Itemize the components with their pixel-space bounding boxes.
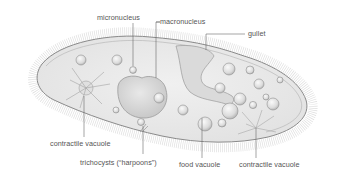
label-macronucleus: macronucleus [160, 18, 205, 25]
label-trichocysts: trichocysts (“harpoons”) [80, 159, 157, 166]
paramecium-illustration [0, 0, 341, 183]
cell-body [37, 36, 307, 142]
label-micronucleus: micronucleus [97, 14, 140, 21]
paramecium-diagram: micronucleus macronucleus gullet contrac… [0, 0, 341, 183]
label-contractile-vacuole-left: contractile vacuole [50, 140, 110, 147]
micronucleus [130, 67, 137, 74]
label-food-vacuole: food vacuole [179, 161, 220, 168]
label-gullet: gullet [248, 30, 265, 37]
label-contractile-vacuole-right: contractile vacuole [239, 161, 299, 168]
